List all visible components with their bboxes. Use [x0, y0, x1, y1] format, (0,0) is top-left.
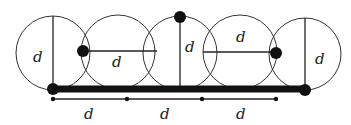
point-dot-1 [47, 83, 59, 95]
label-span-2: d [160, 105, 170, 123]
point-dot-2 [77, 45, 89, 57]
label-circle-5: d [315, 50, 325, 68]
measure-tick-2 [125, 97, 129, 101]
circle-2 [81, 15, 155, 89]
label-circle-3: d [185, 38, 195, 56]
label-circle-1: d [33, 48, 43, 66]
label-span-3: d [236, 105, 246, 123]
rolling-circles-diagram: d d d d d d d d [0, 0, 351, 125]
point-dot-5 [299, 84, 311, 96]
diagram-stage: d d d d d d d d [0, 0, 351, 125]
label-circle-2: d [112, 53, 122, 71]
point-dot-4 [270, 47, 282, 59]
measure-tick-3 [200, 97, 204, 101]
point-dot-3 [174, 11, 186, 23]
label-circle-4: d [236, 28, 246, 46]
measure-tick-4 [274, 97, 278, 101]
label-span-1: d [84, 105, 94, 123]
measure-tick-1 [51, 97, 55, 101]
